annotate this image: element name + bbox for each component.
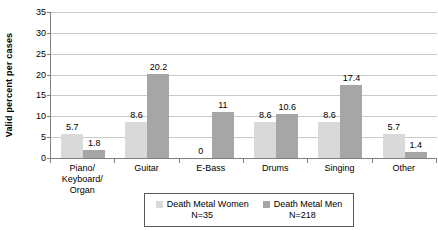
- category-label: Other: [372, 163, 436, 174]
- category-slot: 5.71.4: [373, 12, 437, 158]
- category-label: E-Bass: [179, 163, 243, 174]
- value-label: 11: [203, 100, 243, 110]
- y-tick-label: 25: [24, 49, 46, 59]
- category-slot: 011: [180, 12, 244, 158]
- y-tick-label: 35: [24, 7, 46, 17]
- value-label: 5.7: [52, 122, 92, 132]
- y-tick-mark: [47, 137, 50, 138]
- category-slot: 8.617.4: [308, 12, 372, 158]
- y-tick-label: 15: [24, 90, 46, 100]
- bar-death-metal-men: [340, 85, 362, 158]
- category-label: Drums: [243, 163, 307, 174]
- value-label: 5.7: [374, 122, 414, 132]
- category-label: Piano/Keyboard/Organ: [50, 163, 114, 196]
- bar-death-metal-men: [147, 74, 169, 158]
- value-label: 17.4: [331, 73, 371, 83]
- bar-death-metal-women: [254, 122, 276, 158]
- y-tick-label: 20: [24, 70, 46, 80]
- bar-chart: Valid percent per cases 5.71.88.620.2011…: [0, 0, 438, 230]
- y-tick-label: 30: [24, 28, 46, 38]
- y-axis-label: Valid percent per cases: [4, 33, 14, 138]
- bar-death-metal-men: [212, 112, 234, 158]
- legend-label-women: Death Metal Women: [167, 199, 249, 210]
- y-tick-mark: [47, 116, 50, 117]
- y-tick-label: 5: [24, 132, 46, 142]
- category-slot: 8.620.2: [115, 12, 179, 158]
- legend-n-women: N=35: [191, 210, 213, 221]
- y-tick-mark: [47, 33, 50, 34]
- legend-label-men: Death Metal Men: [274, 199, 343, 210]
- plot-area: 5.71.88.620.20118.610.68.617.45.71.4: [50, 12, 437, 159]
- y-tick-mark: [47, 54, 50, 55]
- y-tick-mark: [47, 95, 50, 96]
- bar-death-metal-men: [83, 150, 105, 158]
- legend-entry-men: Death Metal Men N=218: [263, 199, 343, 221]
- value-label: 10.6: [267, 102, 307, 112]
- legend-n-men: N=218: [289, 210, 316, 221]
- bar-death-metal-men: [405, 152, 427, 158]
- value-label: 20.2: [138, 62, 178, 72]
- bar-death-metal-women: [125, 122, 147, 158]
- bar-death-metal-men: [276, 114, 298, 158]
- category-slot: 5.71.8: [51, 12, 115, 158]
- bar-death-metal-women: [318, 122, 340, 158]
- y-tick-label: 10: [24, 111, 46, 121]
- category-label: Guitar: [114, 163, 178, 174]
- value-label: 1.8: [74, 138, 114, 148]
- x-tick-mark: [436, 159, 437, 163]
- legend: Death Metal Women N=35 Death Metal Men N…: [144, 193, 354, 227]
- category-slot: 8.610.6: [244, 12, 308, 158]
- value-label: 1.4: [396, 140, 436, 150]
- legend-entry-women: Death Metal Women N=35: [156, 199, 249, 221]
- legend-marker-women-icon: [156, 201, 163, 208]
- legend-marker-men-icon: [263, 201, 270, 208]
- category-label: Singing: [307, 163, 371, 174]
- y-tick-label: 0: [24, 153, 46, 163]
- y-tick-mark: [47, 75, 50, 76]
- y-tick-mark: [47, 12, 50, 13]
